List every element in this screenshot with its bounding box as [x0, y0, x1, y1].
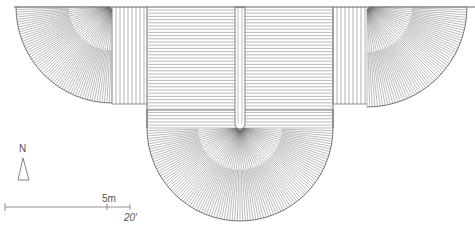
left-vertical-planks — [112, 7, 147, 128]
left-quarter-fan — [16, 7, 112, 103]
north-label: N — [19, 143, 26, 154]
north-arrow-icon — [18, 158, 29, 180]
scale-metric-label: 5m — [102, 193, 116, 204]
center-post — [235, 7, 245, 129]
scale-bar — [5, 203, 130, 211]
scale-imperial-label: 20' — [124, 212, 137, 223]
right-vertical-planks — [333, 7, 367, 128]
right-quarter-fan — [367, 7, 467, 107]
floor-plan-drawing — [0, 0, 475, 232]
